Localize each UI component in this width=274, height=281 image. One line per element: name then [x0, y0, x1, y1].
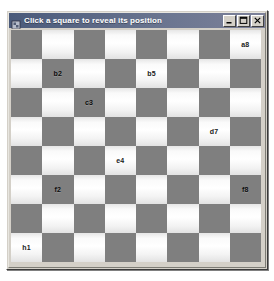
- board-square[interactable]: h1: [11, 233, 42, 262]
- board-square[interactable]: f2: [42, 175, 73, 204]
- board-square[interactable]: [136, 117, 167, 146]
- board-square[interactable]: [105, 175, 136, 204]
- board-square[interactable]: e4: [105, 146, 136, 175]
- square-position-label: b5: [147, 70, 156, 77]
- app-icon: [11, 16, 21, 26]
- board-square[interactable]: [42, 204, 73, 233]
- square-position-label: f8: [242, 186, 249, 193]
- square-position-label: h1: [22, 244, 31, 251]
- minimize-button[interactable]: [223, 15, 236, 27]
- board-square[interactable]: [105, 30, 136, 59]
- board-square[interactable]: [230, 117, 261, 146]
- board-square[interactable]: [11, 88, 42, 117]
- board-square[interactable]: [230, 204, 261, 233]
- board-area: a8b2b5c3d7e4f2f8h1: [9, 29, 263, 265]
- minimize-icon: [225, 16, 234, 25]
- board-square[interactable]: [199, 233, 230, 262]
- window-controls: [223, 15, 264, 27]
- board-square[interactable]: [136, 175, 167, 204]
- board-square[interactable]: [105, 117, 136, 146]
- board-square[interactable]: [167, 146, 198, 175]
- board-square[interactable]: [42, 88, 73, 117]
- board-square[interactable]: [74, 175, 105, 204]
- board-square[interactable]: [42, 146, 73, 175]
- square-position-label: d7: [210, 128, 219, 135]
- board-square[interactable]: [74, 233, 105, 262]
- board-square[interactable]: [167, 233, 198, 262]
- board-square[interactable]: [136, 88, 167, 117]
- board-square[interactable]: [105, 233, 136, 262]
- board-square[interactable]: [230, 146, 261, 175]
- board-square[interactable]: [42, 233, 73, 262]
- board-square[interactable]: [42, 30, 73, 59]
- board-square[interactable]: [105, 59, 136, 88]
- square-position-label: e4: [116, 157, 124, 164]
- board-square[interactable]: [199, 30, 230, 59]
- board-square[interactable]: [42, 117, 73, 146]
- board-square[interactable]: [74, 117, 105, 146]
- square-position-label: c3: [85, 99, 93, 106]
- board-square[interactable]: [11, 117, 42, 146]
- board-square[interactable]: d7: [199, 117, 230, 146]
- board-square[interactable]: a8: [230, 30, 261, 59]
- board-square[interactable]: [74, 59, 105, 88]
- board-square[interactable]: [230, 233, 261, 262]
- board-square[interactable]: [136, 204, 167, 233]
- board-square[interactable]: [167, 88, 198, 117]
- board-square[interactable]: [11, 59, 42, 88]
- board-square[interactable]: [199, 175, 230, 204]
- board-square[interactable]: [167, 59, 198, 88]
- application-window: Click a square to reveal its position a: [6, 10, 268, 270]
- square-position-label: b2: [54, 70, 63, 77]
- chessboard[interactable]: a8b2b5c3d7e4f2f8h1: [11, 30, 261, 262]
- board-square[interactable]: [105, 88, 136, 117]
- board-square[interactable]: [199, 204, 230, 233]
- board-square[interactable]: [199, 59, 230, 88]
- square-position-label: a8: [241, 41, 249, 48]
- board-square[interactable]: [11, 30, 42, 59]
- board-square[interactable]: [11, 204, 42, 233]
- board-square[interactable]: b2: [42, 59, 73, 88]
- board-square[interactable]: [74, 30, 105, 59]
- window-title: Click a square to reveal its position: [24, 16, 223, 25]
- board-square[interactable]: [11, 175, 42, 204]
- board-square[interactable]: [136, 146, 167, 175]
- board-square[interactable]: f8: [230, 175, 261, 204]
- board-square[interactable]: [136, 233, 167, 262]
- square-position-label: f2: [55, 186, 62, 193]
- maximize-icon: [239, 16, 248, 25]
- board-square[interactable]: [199, 88, 230, 117]
- board-square[interactable]: [74, 146, 105, 175]
- board-square[interactable]: [199, 146, 230, 175]
- board-square[interactable]: [230, 59, 261, 88]
- board-square[interactable]: b5: [136, 59, 167, 88]
- board-square[interactable]: [136, 30, 167, 59]
- title-bar[interactable]: Click a square to reveal its position: [9, 13, 265, 28]
- board-square[interactable]: [230, 88, 261, 117]
- board-square[interactable]: c3: [74, 88, 105, 117]
- board-square[interactable]: [167, 204, 198, 233]
- board-square[interactable]: [105, 204, 136, 233]
- close-button[interactable]: [251, 15, 264, 27]
- board-square[interactable]: [167, 175, 198, 204]
- board-square[interactable]: [167, 117, 198, 146]
- maximize-button[interactable]: [237, 15, 250, 27]
- close-icon: [253, 16, 262, 25]
- board-square[interactable]: [167, 30, 198, 59]
- board-square[interactable]: [74, 204, 105, 233]
- board-square[interactable]: [11, 146, 42, 175]
